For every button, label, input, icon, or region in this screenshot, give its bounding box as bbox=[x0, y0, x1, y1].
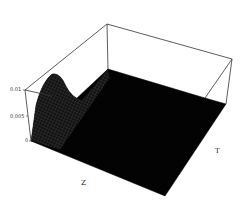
x-axis-label: Z bbox=[81, 180, 86, 187]
z-tick-label-mid: 0.005 bbox=[10, 114, 24, 119]
z-tick-label-top: 0.01 bbox=[10, 87, 21, 92]
surface-plot-3d bbox=[0, 0, 242, 206]
z-tick-label-bottom: 0 bbox=[25, 138, 28, 143]
y-axis-label: T bbox=[215, 148, 220, 155]
